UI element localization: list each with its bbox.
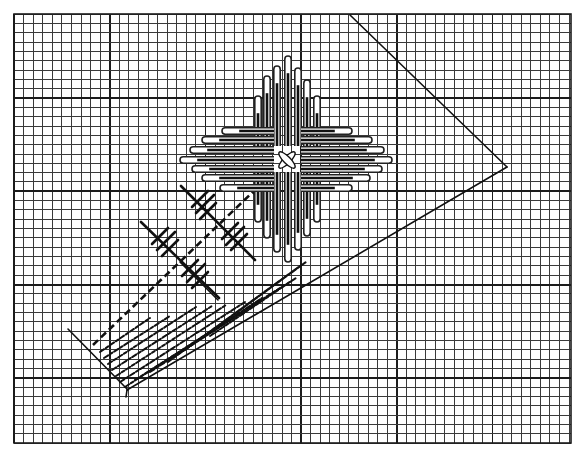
hatch-stroke: [108, 307, 196, 364]
hatch-stroke: [112, 306, 212, 370]
tick-mark: [226, 227, 244, 245]
left-tail-line: [126, 390, 127, 397]
center-x-mark: [277, 150, 298, 171]
graph-paper-diagram: [0, 0, 583, 458]
hatch-stroke: [100, 318, 150, 352]
graph-paper-grid: [14, 14, 571, 443]
hatch-stroke: [210, 282, 290, 336]
diagram-canvas: Graph-paper construction diagram with cr…: [0, 0, 583, 458]
